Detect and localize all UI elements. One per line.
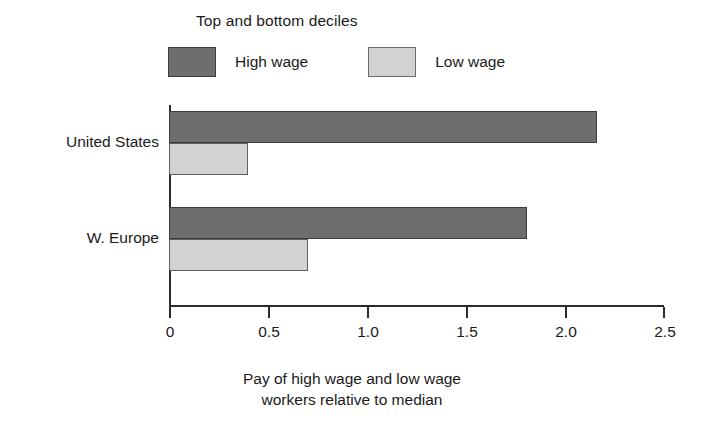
legend-title: Top and bottom deciles (196, 12, 358, 30)
x-tick-5 (663, 307, 665, 318)
bar-w-europe-low-wage (169, 239, 308, 271)
x-axis-title: Pay of high wage and low wage workers re… (0, 368, 704, 410)
bar-united-states-high-wage (169, 111, 597, 143)
x-tick-1 (268, 307, 270, 318)
x-tick-label-5: 2.5 (654, 323, 676, 341)
plot-area: 0 0.5 1.0 1.5 2.0 2.5 (169, 105, 664, 305)
legend-swatch-low-wage-icon (368, 47, 416, 77)
x-tick-label-4: 2.0 (555, 323, 577, 341)
legend-swatch-high-wage-icon (168, 47, 216, 77)
x-tick-label-1: 0.5 (258, 323, 280, 341)
x-tick-label-2: 1.0 (357, 323, 379, 341)
bar-w-europe-high-wage (169, 207, 527, 239)
legend-item-low-wage: Low wage (368, 47, 505, 77)
x-tick-4 (565, 307, 567, 318)
legend-item-high-wage: High wage (168, 47, 308, 77)
x-tick-label-3: 1.5 (456, 323, 478, 341)
category-label-w-europe: W. Europe (87, 229, 159, 247)
x-tick-0 (169, 307, 171, 318)
legend-label-low-wage: Low wage (435, 53, 505, 71)
bar-united-states-low-wage (169, 143, 248, 175)
x-axis-title-line1: Pay of high wage and low wage (243, 370, 461, 387)
legend-label-high-wage: High wage (235, 53, 308, 71)
bar-chart: Top and bottom deciles High wage Low wag… (0, 0, 704, 437)
chart-legend: High wage Low wage (168, 47, 505, 77)
x-tick-label-0: 0 (166, 323, 175, 341)
category-label-united-states: United States (66, 133, 159, 151)
x-tick-3 (466, 307, 468, 318)
x-axis-title-line2: workers relative to median (0, 389, 704, 410)
x-tick-2 (367, 307, 369, 318)
x-axis-line (169, 305, 664, 307)
